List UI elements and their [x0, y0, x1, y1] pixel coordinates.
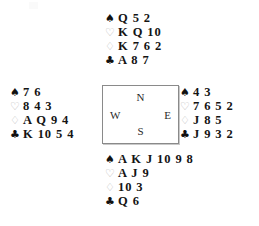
hand-north-clubs-row: ♣ A 8 7 — [105, 53, 162, 67]
heart-suit-icon: ♡ — [10, 100, 23, 114]
hand-east-spades-cards: 4 3 — [193, 85, 211, 99]
compass-west-label: W — [110, 109, 120, 120]
hand-south-spades-row: ♠ A K J 10 9 8 — [105, 152, 194, 166]
hand-south-spades-cards: A K J 10 9 8 — [118, 152, 194, 166]
compass-south-label: S — [137, 126, 143, 137]
scan-artifact — [29, 2, 38, 9]
hand-north-diamonds-row: ♢ K 7 6 2 — [105, 39, 162, 53]
club-suit-icon: ♣ — [180, 128, 193, 142]
hand-west-spades-cards: 7 6 — [23, 85, 41, 99]
hand-west-hearts-row: ♡ 8 4 3 — [10, 99, 74, 113]
diamond-suit-icon: ♢ — [105, 40, 118, 54]
heart-suit-icon: ♡ — [180, 100, 193, 114]
hand-east-hearts-cards: 7 6 5 2 — [193, 99, 234, 113]
hand-east-hearts-row: ♡ 7 6 5 2 — [180, 99, 234, 113]
hand-west-spades-row: ♠ 7 6 — [10, 85, 74, 99]
club-suit-icon: ♣ — [105, 54, 118, 68]
hand-south-diamonds-row: ♢ 10 3 — [105, 180, 194, 194]
hand-west-diamonds-cards: A Q 9 4 — [23, 113, 69, 127]
diamond-suit-icon: ♢ — [10, 114, 23, 128]
hand-south-clubs-cards: Q 6 — [118, 194, 140, 208]
club-suit-icon: ♣ — [10, 128, 23, 142]
compass-east-label: E — [164, 109, 171, 120]
hand-west-diamonds-row: ♢ A Q 9 4 — [10, 113, 74, 127]
hand-east-diamonds-cards: J 8 5 — [193, 113, 223, 127]
heart-suit-icon: ♡ — [105, 26, 118, 40]
hand-south-diamonds-cards: 10 3 — [118, 180, 143, 194]
hand-south: ♠ A K J 10 9 8 ♡ A J 9 ♢ 10 3 ♣ Q 6 — [105, 152, 194, 208]
compass-north-label: N — [137, 92, 145, 103]
hand-north-diamonds-cards: K 7 6 2 — [118, 39, 162, 53]
bridge-deal-diagram: ♠ Q 5 2 ♡ K Q 10 ♢ K 7 6 2 ♣ A 8 7 ♠ 7 6… — [0, 0, 259, 226]
hand-north-spades-row: ♠ Q 5 2 — [105, 11, 162, 25]
spade-suit-icon: ♠ — [180, 86, 193, 100]
hand-east: ♠ 4 3 ♡ 7 6 5 2 ♢ J 8 5 ♣ J 9 3 2 — [180, 85, 234, 141]
hand-north: ♠ Q 5 2 ♡ K Q 10 ♢ K 7 6 2 ♣ A 8 7 — [105, 11, 162, 67]
spade-suit-icon: ♠ — [105, 12, 118, 26]
hand-west: ♠ 7 6 ♡ 8 4 3 ♢ A Q 9 4 ♣ K 10 5 4 — [10, 85, 74, 141]
club-suit-icon: ♣ — [105, 195, 118, 209]
spade-suit-icon: ♠ — [105, 153, 118, 167]
hand-north-hearts-row: ♡ K Q 10 — [105, 25, 162, 39]
hand-east-spades-row: ♠ 4 3 — [180, 85, 234, 99]
heart-suit-icon: ♡ — [105, 167, 118, 181]
hand-east-clubs-row: ♣ J 9 3 2 — [180, 127, 234, 141]
compass-box: N E S W — [102, 85, 179, 144]
spade-suit-icon: ♠ — [10, 86, 23, 100]
hand-south-hearts-cards: A J 9 — [118, 166, 150, 180]
hand-west-hearts-cards: 8 4 3 — [23, 99, 53, 113]
hand-west-clubs-cards: K 10 5 4 — [23, 127, 74, 141]
hand-west-clubs-row: ♣ K 10 5 4 — [10, 127, 74, 141]
hand-north-spades-cards: Q 5 2 — [118, 11, 151, 25]
hand-east-clubs-cards: J 9 3 2 — [193, 127, 234, 141]
hand-north-clubs-cards: A 8 7 — [118, 53, 150, 67]
diamond-suit-icon: ♢ — [180, 114, 193, 128]
hand-north-hearts-cards: K Q 10 — [118, 25, 162, 39]
hand-south-clubs-row: ♣ Q 6 — [105, 194, 194, 208]
diamond-suit-icon: ♢ — [105, 181, 118, 195]
hand-east-diamonds-row: ♢ J 8 5 — [180, 113, 234, 127]
hand-south-hearts-row: ♡ A J 9 — [105, 166, 194, 180]
